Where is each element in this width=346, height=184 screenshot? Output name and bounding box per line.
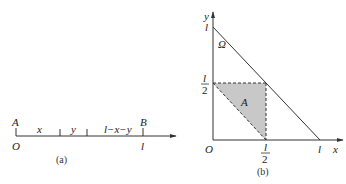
label-A: A [11,116,19,128]
caption-b: (b) [257,166,269,178]
x-tick-half-num: l [264,141,267,153]
figure-a: A x y l−x−y B O l (a) [11,116,176,166]
y-tick-half-num: l [203,72,206,84]
x-tick-half-den: 2 [262,153,268,165]
label-segment-x: x [36,123,42,135]
label-O-b: O [205,143,213,155]
region-omega-label: Ω [218,38,226,50]
region-A-label: A [240,96,248,108]
figure-canvas: A x y l−x−y B O l (a) y l Ω l 2 A O l 2 … [0,0,346,184]
label-segment-rest: l−x−y [104,123,132,135]
figure-b: y l Ω l 2 A O l 2 l x (b) [201,10,343,178]
y-tick-half-den: 2 [202,84,208,96]
label-l-a: l [141,140,144,152]
x-tick-l: l [318,143,321,155]
label-segment-y: y [70,123,76,135]
axis-x-label: x [332,143,338,155]
y-tick-l: l [205,21,208,33]
caption-a: (a) [56,154,67,166]
label-B: B [140,116,147,128]
label-O-a: O [12,140,20,152]
